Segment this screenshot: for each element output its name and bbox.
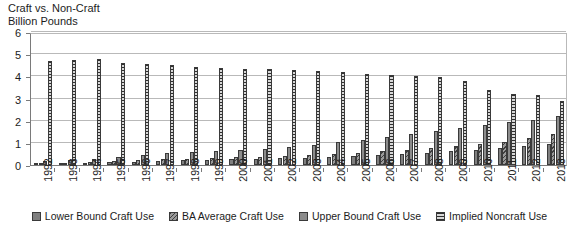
x-axis-tick-group: 2011 — [494, 168, 518, 204]
y-axis-tick-label: 6 — [15, 27, 21, 39]
x-axis-tick-label: 2013 — [555, 158, 567, 181]
x-axis-tick-label: 2004 — [335, 158, 347, 181]
bar — [156, 161, 160, 165]
x-axis-tick — [152, 168, 153, 172]
x-axis-tick-group: 1997 — [152, 168, 176, 204]
x-axis-tick — [299, 168, 300, 172]
x-axis-tick-group: 1996 — [128, 168, 152, 204]
x-axis-tick-group: 1999 — [201, 168, 225, 204]
x-axis-tick-label: 2012 — [530, 158, 542, 181]
y-axis-tick-label: 0 — [15, 160, 21, 172]
x-axis-tick — [201, 168, 202, 172]
bar-group — [449, 34, 467, 165]
x-axis-tick-label: 2007 — [408, 158, 420, 181]
bar — [303, 158, 307, 165]
x-axis-tick — [445, 168, 446, 172]
bar — [536, 95, 540, 165]
bar — [341, 72, 345, 165]
x-axis-tick — [347, 168, 348, 172]
x-axis-tick — [103, 168, 104, 172]
x-axis-tick-group: 1994 — [79, 168, 103, 204]
legend-label: BA Average Craft Use — [182, 210, 284, 222]
y-axis-tick-label: 1 — [15, 138, 21, 150]
bar — [547, 144, 551, 166]
x-axis-tick-label: 2002 — [286, 158, 298, 181]
bar — [425, 153, 429, 165]
y-axis-tick-label: 3 — [15, 94, 21, 106]
bar — [560, 101, 564, 165]
y-axis-tick-label: 2 — [15, 116, 21, 128]
x-axis-tick-label: 2010 — [482, 158, 494, 181]
x-axis-tick-label: 2005 — [360, 158, 372, 181]
bar — [438, 77, 442, 165]
x-axis-tick-label: 2009 — [457, 158, 469, 181]
bar-group — [156, 34, 174, 165]
bar — [254, 159, 258, 165]
bar — [487, 90, 491, 165]
x-axis-tick — [543, 168, 544, 172]
legend-item[interactable]: Lower Bound Craft Use — [32, 210, 154, 222]
x-axis-tick-group: 2013 — [543, 168, 567, 204]
x-axis-tick-group: 1992 — [30, 168, 54, 204]
bar — [376, 155, 380, 165]
x-axis-tick — [79, 168, 80, 172]
bar — [474, 150, 478, 165]
legend-label: Upper Bound Craft Use — [312, 210, 421, 222]
bar-group — [425, 34, 443, 165]
bar — [278, 158, 282, 165]
x-axis-tick-label: 1995 — [115, 158, 127, 181]
bar — [389, 75, 393, 165]
chart-container: Craft vs. Non-Craft Billion Pounds 65432… — [0, 0, 579, 232]
bar-group — [303, 34, 321, 165]
y-axis-tick-label: 5 — [15, 49, 21, 61]
legend-swatch-icon — [299, 212, 308, 221]
bar — [511, 94, 515, 165]
x-axis-tick-group: 2002 — [274, 168, 298, 204]
x-axis-tick-group: 2003 — [299, 168, 323, 204]
bar — [48, 61, 52, 165]
x-axis-tick-group: 2001 — [250, 168, 274, 204]
x-axis-tick-label: 2003 — [311, 158, 323, 181]
bar — [59, 163, 63, 165]
bar — [83, 163, 87, 165]
bar-group — [132, 34, 150, 165]
bar — [400, 154, 404, 165]
bar — [351, 156, 355, 165]
bar — [267, 69, 271, 165]
x-axis-tick — [176, 168, 177, 172]
x-axis-tick-label: 2000 — [237, 158, 249, 181]
x-axis-tick-group: 2008 — [421, 168, 445, 204]
x-axis-tick — [494, 168, 495, 172]
x-axis-tick-group: 2005 — [347, 168, 371, 204]
bar — [243, 69, 247, 165]
x-axis-tick-label: 2001 — [262, 158, 274, 181]
bar-group — [351, 34, 369, 165]
bar-group — [83, 34, 101, 165]
legend-swatch-icon — [169, 212, 178, 221]
x-axis-tick — [128, 168, 129, 172]
bar — [34, 163, 38, 165]
x-axis-tick — [396, 168, 397, 172]
x-axis-tick-group: 2009 — [445, 168, 469, 204]
chart-title-line-1: Craft vs. Non-Craft — [8, 2, 100, 15]
bar — [121, 63, 125, 165]
x-axis-tick-group: 2010 — [469, 168, 493, 204]
bar — [229, 159, 233, 165]
x-axis-tick-group: 1998 — [176, 168, 200, 204]
x-axis-tick-label: 1999 — [213, 158, 225, 181]
bar-group — [107, 34, 125, 165]
x-axis-tick-group: 2004 — [323, 168, 347, 204]
legend-item[interactable]: BA Average Craft Use — [169, 210, 284, 222]
legend-item[interactable]: Upper Bound Craft Use — [299, 210, 421, 222]
x-axis-tick-group: 1995 — [103, 168, 127, 204]
x-axis-tick-group: 2006 — [372, 168, 396, 204]
bar — [449, 151, 453, 165]
bar-group — [181, 34, 199, 165]
bar — [107, 162, 111, 165]
x-axis-tick-label: 1996 — [140, 158, 152, 181]
bar — [181, 160, 185, 165]
legend-item[interactable]: Implied Noncraft Use — [436, 210, 547, 222]
x-axis: 1992199319941995199619971998199920002001… — [30, 168, 567, 204]
bar-group — [205, 34, 223, 165]
x-axis-tick-label: 2011 — [506, 159, 518, 182]
